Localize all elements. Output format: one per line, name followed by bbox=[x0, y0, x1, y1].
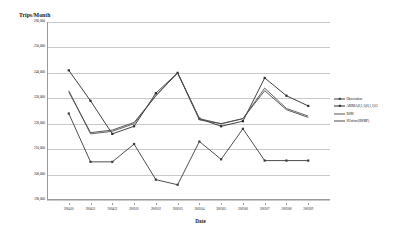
plot-area bbox=[47, 22, 330, 200]
x-tick-mark bbox=[221, 203, 222, 205]
y-tick-label: 260,000 bbox=[34, 20, 45, 24]
x-tick-mark bbox=[69, 203, 70, 205]
x-axis-tick-labels: 2004102004112004122005012005022005032005… bbox=[47, 203, 330, 215]
series-line bbox=[69, 73, 308, 134]
x-tick-label: 200502 bbox=[151, 207, 161, 211]
x-tick-label: 200410 bbox=[64, 207, 74, 211]
series-line bbox=[69, 114, 308, 185]
legend-item[interactable]: BSM bbox=[334, 110, 400, 117]
data-point-marker bbox=[307, 159, 309, 161]
data-point-marker bbox=[111, 133, 113, 135]
data-point-marker bbox=[133, 125, 135, 127]
data-point-marker bbox=[307, 105, 309, 107]
series-layer bbox=[47, 22, 330, 200]
x-axis-title: Date bbox=[0, 218, 401, 224]
data-point-marker bbox=[68, 69, 70, 71]
data-point-marker bbox=[133, 143, 135, 145]
data-point-marker bbox=[242, 128, 244, 130]
data-point-marker bbox=[285, 95, 287, 97]
y-axis-title: Trips/Month bbox=[19, 12, 50, 18]
series-line bbox=[69, 70, 308, 134]
data-point-marker bbox=[111, 161, 113, 163]
series-0 bbox=[68, 112, 310, 185]
legend-item[interactable]: Observation bbox=[334, 95, 400, 102]
x-tick-label: 200412 bbox=[107, 207, 117, 211]
x-tick-label: 200507 bbox=[260, 207, 270, 211]
data-point-marker bbox=[285, 159, 287, 161]
x-tick-label: 200506 bbox=[238, 207, 248, 211]
y-tick-label: 210,000 bbox=[34, 147, 45, 151]
x-tick-mark bbox=[156, 203, 157, 205]
data-point-marker bbox=[198, 140, 200, 142]
x-tick-mark bbox=[286, 203, 287, 205]
legend-swatch-icon bbox=[334, 111, 345, 117]
legend-label: SUnivar/(BSMP) bbox=[347, 119, 369, 123]
line-chart: Trips/Month 260,000250,000240,000230,000… bbox=[0, 0, 401, 248]
data-point-marker bbox=[220, 125, 222, 127]
data-point-marker bbox=[220, 158, 222, 160]
data-point-marker bbox=[264, 159, 266, 161]
data-point-marker bbox=[155, 92, 157, 94]
data-point-marker bbox=[89, 100, 91, 102]
legend-item[interactable]: SUnivar/(BSMP) bbox=[334, 118, 400, 125]
series-2 bbox=[69, 73, 308, 134]
chart-legend: ObservationARIMA(0,1,1)(0,1,1)12BSMSUniv… bbox=[334, 95, 400, 125]
y-tick-label: 200,000 bbox=[34, 173, 45, 177]
data-point-marker bbox=[177, 184, 179, 186]
data-point-marker bbox=[242, 120, 244, 122]
x-tick-mark bbox=[91, 203, 92, 205]
legend-swatch-icon bbox=[334, 118, 345, 124]
data-point-marker bbox=[155, 179, 157, 181]
data-point-marker bbox=[89, 161, 91, 163]
x-tick-label: 200501 bbox=[129, 207, 139, 211]
x-tick-label: 200505 bbox=[216, 207, 226, 211]
y-axis-tick-labels: 260,000250,000240,000230,000220,000210,0… bbox=[16, 22, 45, 200]
x-tick-label: 200503 bbox=[173, 207, 183, 211]
x-tick-mark bbox=[178, 203, 179, 205]
x-tick-mark bbox=[308, 203, 309, 205]
y-tick-label: 240,000 bbox=[34, 71, 45, 75]
series-3 bbox=[69, 73, 308, 133]
x-tick-label: 200508 bbox=[282, 207, 292, 211]
data-point-marker bbox=[264, 77, 266, 79]
legend-label: BSM bbox=[347, 112, 354, 116]
legend-swatch-icon bbox=[334, 96, 345, 102]
x-tick-label: 200411 bbox=[86, 207, 96, 211]
y-tick-label: 190,000 bbox=[34, 198, 45, 202]
x-tick-label: 200509 bbox=[303, 207, 313, 211]
legend-label: ARIMA(0,1,1)(0,1,1)12 bbox=[347, 104, 378, 108]
legend-swatch-icon bbox=[334, 103, 345, 109]
series-line bbox=[69, 73, 308, 133]
x-tick-mark bbox=[134, 203, 135, 205]
x-tick-mark bbox=[112, 203, 113, 205]
legend-item[interactable]: ARIMA(0,1,1)(0,1,1)12 bbox=[334, 103, 400, 110]
y-tick-label: 220,000 bbox=[34, 122, 45, 126]
x-tick-mark bbox=[199, 203, 200, 205]
x-tick-mark bbox=[265, 203, 266, 205]
y-tick-label: 230,000 bbox=[34, 97, 45, 101]
legend-label: Observation bbox=[347, 97, 363, 101]
x-tick-label: 200504 bbox=[194, 207, 204, 211]
x-tick-mark bbox=[243, 203, 244, 205]
gridline bbox=[47, 200, 330, 201]
y-tick-label: 250,000 bbox=[34, 46, 45, 50]
series-1 bbox=[68, 69, 310, 135]
data-point-marker bbox=[68, 112, 70, 114]
